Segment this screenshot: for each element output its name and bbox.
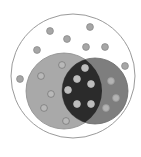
dot-both (74, 101, 81, 108)
dot-both (88, 81, 95, 88)
dot-outside (102, 44, 109, 51)
dot-outside (87, 24, 94, 31)
dot-b-only (103, 105, 110, 112)
dot-outside (64, 36, 71, 43)
dot-both (74, 76, 81, 83)
dot-a-only (38, 73, 45, 80)
dot-b-only (108, 78, 115, 85)
dot-outside (83, 44, 90, 51)
dot-a-only (41, 105, 48, 112)
dot-both (65, 87, 72, 94)
dot-a-only (48, 91, 55, 98)
dot-both (88, 101, 95, 108)
dot-outside (122, 63, 129, 70)
dot-outside (34, 47, 41, 54)
dot-both (82, 65, 89, 72)
dot-outside (47, 28, 54, 35)
venn-diagram (0, 0, 141, 157)
dot-a-only (59, 62, 66, 69)
dot-b-only (113, 95, 120, 102)
dot-outside (17, 76, 24, 83)
dot-a-only (63, 118, 70, 125)
